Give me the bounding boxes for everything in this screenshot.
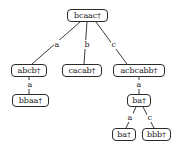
tree-node-bbb[interactable]: bbb† bbox=[142, 128, 171, 141]
edge-label-ba-c: c bbox=[147, 113, 152, 122]
tree-node-abcb[interactable]: abcb† bbox=[11, 64, 47, 77]
edge-label-root-b: b bbox=[84, 40, 90, 49]
tree-node-bbaa[interactable]: bbaa† bbox=[12, 94, 49, 107]
tree-node-ba-leaf[interactable]: ba† bbox=[112, 128, 136, 141]
edge-label-ba-a: a bbox=[127, 113, 133, 122]
tree-diagram: bcaac† abcb† cacab† acbcabb† bbaa† ba† b… bbox=[0, 0, 175, 150]
tree-node-acbcabb[interactable]: acbcabb† bbox=[113, 64, 165, 77]
edge-label-abcb-a: a bbox=[27, 80, 33, 89]
tree-node-root[interactable]: bcaac† bbox=[67, 9, 108, 22]
tree-node-ba-mid[interactable]: ba† bbox=[127, 94, 151, 107]
edge-label-acbcabb-a: a bbox=[136, 80, 142, 89]
edge-label-root-c: c bbox=[111, 40, 116, 49]
edge-label-root-a: a bbox=[54, 40, 60, 49]
tree-node-cacab[interactable]: cacab† bbox=[62, 64, 102, 77]
